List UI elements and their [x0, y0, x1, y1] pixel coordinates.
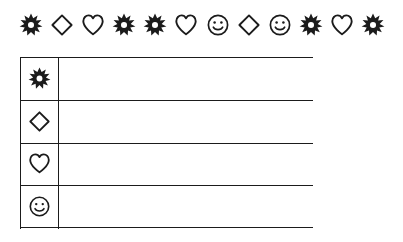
- diamond-icon: [28, 110, 51, 133]
- sequence-item: [80, 11, 105, 39]
- table-row-answer-blank[interactable]: [58, 185, 313, 228]
- heart-icon: [174, 13, 198, 37]
- star-icon: [361, 13, 385, 37]
- table-row-key: [20, 143, 58, 186]
- sequence-item: [267, 11, 292, 39]
- diamond-icon: [50, 13, 74, 37]
- sequence-item: [143, 11, 168, 39]
- table-row-answer-blank[interactable]: [58, 57, 313, 100]
- sequence-item: [205, 11, 230, 39]
- sequence-item: [18, 11, 43, 39]
- table-row-key: [20, 185, 58, 228]
- table-row: [20, 185, 313, 228]
- table-row-key: [20, 57, 58, 100]
- table-rule-horizontal: [20, 57, 313, 58]
- sequence-item: [174, 11, 199, 39]
- sequence-item: [361, 11, 386, 39]
- sequence-item: [236, 11, 261, 39]
- sequence-item: [299, 11, 324, 39]
- heart-icon: [330, 13, 354, 37]
- sequence-item: [49, 11, 74, 39]
- diamond-icon: [237, 13, 261, 37]
- table-row-answer-blank[interactable]: [58, 143, 313, 186]
- star-icon: [28, 67, 51, 90]
- table-rule-vertical: [20, 57, 21, 229]
- star-icon: [19, 13, 43, 37]
- table-rule-vertical: [58, 57, 59, 229]
- star-icon: [112, 13, 136, 37]
- smiley-icon: [268, 13, 292, 37]
- table-rule-horizontal: [20, 100, 313, 101]
- star-icon: [299, 13, 323, 37]
- smiley-icon: [206, 13, 230, 37]
- table-rule-horizontal: [20, 227, 313, 228]
- table-rule-horizontal: [20, 143, 313, 144]
- sequence-item: [112, 11, 137, 39]
- table-rule-horizontal: [20, 185, 313, 186]
- tally-table: [20, 57, 313, 228]
- table-row-key: [20, 100, 58, 143]
- heart-icon: [81, 13, 105, 37]
- heart-icon: [28, 152, 51, 175]
- smiley-icon: [28, 195, 51, 218]
- table-row-answer-blank[interactable]: [58, 100, 313, 143]
- table-row: [20, 57, 313, 100]
- symbol-sequence-strip: [18, 8, 386, 42]
- table-row: [20, 143, 313, 186]
- table-row: [20, 100, 313, 143]
- sequence-item: [330, 11, 355, 39]
- star-icon: [143, 13, 167, 37]
